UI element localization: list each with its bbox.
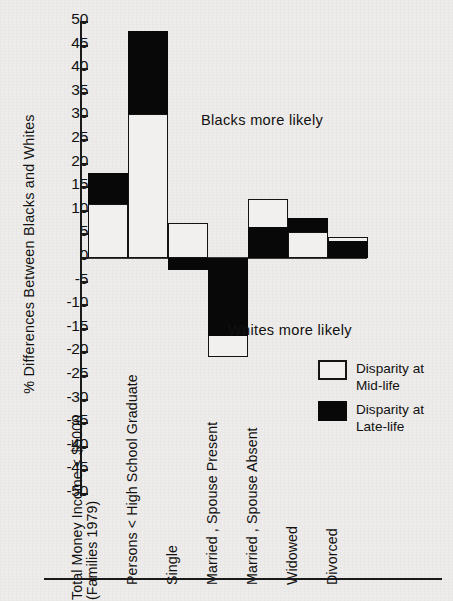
bar-segment-mid-life[interactable] — [288, 232, 328, 258]
legend-item[interactable]: Disparity atMid-life — [318, 360, 424, 394]
legend-label-line2: Mid-life — [356, 378, 400, 393]
bar-group[interactable] — [288, 0, 328, 520]
y-tick-mark — [80, 375, 88, 377]
y-tick-mark — [80, 351, 88, 353]
x-axis-label: Widowed — [285, 526, 300, 585]
annotation-whites-more-likely: Whites more likely — [228, 322, 352, 338]
y-tick-mark — [80, 257, 88, 259]
x-axis-label-line1: Married , Spouse Present — [204, 422, 220, 585]
bar-segment-late-life[interactable] — [248, 227, 288, 258]
x-axis-label-line1: Total Money Income < $5000 — [69, 415, 85, 600]
legend-swatch-black — [318, 401, 347, 421]
y-tick-mark — [80, 210, 88, 212]
y-tick-mark — [80, 21, 88, 23]
x-axis-label: Married , Spouse Absent — [245, 427, 260, 585]
legend-label-line2: Late-life — [356, 419, 404, 434]
x-axis-label: Persons < High School Graduate — [125, 374, 140, 585]
bottom-rule — [44, 578, 442, 580]
y-tick-mark — [80, 399, 88, 401]
bar-segment-late-life[interactable] — [168, 258, 208, 270]
y-axis-title: % Differences Between Blacks and Whites — [21, 54, 37, 454]
y-tick-mark — [80, 328, 88, 330]
x-axis-label-line2: (Families 1979) — [85, 415, 100, 600]
bar-group[interactable] — [328, 0, 368, 520]
y-tick-mark — [80, 304, 88, 306]
bar-group[interactable] — [168, 0, 208, 520]
x-axis-label-line1: Married , Spouse Absent — [244, 427, 260, 585]
x-axis-label: Total Money Income < $5000(Families 1979… — [70, 415, 100, 600]
x-axis-label-line1: Divorced — [324, 528, 340, 585]
legend-label-line1: Disparity at — [356, 402, 424, 417]
legend-item[interactable]: Disparity atLate-life — [318, 401, 424, 435]
x-axis-label: Married , Spouse Present — [205, 422, 220, 585]
y-tick-mark — [80, 68, 88, 70]
y-tick-mark — [80, 92, 88, 94]
y-tick-mark — [80, 139, 88, 141]
annotation-blacks-more-likely: Blacks more likely — [201, 112, 323, 128]
bar-segment-mid-life[interactable] — [128, 114, 168, 258]
legend-swatch-white — [318, 360, 347, 380]
bar-segment-late-life[interactable] — [328, 241, 368, 258]
bar-segment-mid-life[interactable] — [168, 223, 208, 258]
y-tick-mark — [80, 469, 88, 471]
y-tick-mark — [80, 422, 88, 424]
x-axis-label-line1: Persons < High School Graduate — [124, 374, 140, 585]
bar-segment-mid-life[interactable] — [88, 204, 128, 258]
x-axis-label: Divorced — [325, 528, 340, 585]
legend-label-line1: Disparity at — [356, 361, 424, 376]
y-tick-mark — [80, 186, 88, 188]
y-tick-mark — [80, 446, 88, 448]
y-tick-mark — [80, 115, 88, 117]
x-axis-label-line1: Widowed — [284, 526, 300, 585]
y-tick-mark — [80, 281, 88, 283]
y-tick-mark — [80, 233, 88, 235]
y-tick-mark — [80, 493, 88, 495]
y-tick-mark — [80, 163, 88, 165]
bar-chart: % Differences Between Blacks and Whites … — [0, 0, 453, 601]
y-tick-mark — [80, 45, 88, 47]
